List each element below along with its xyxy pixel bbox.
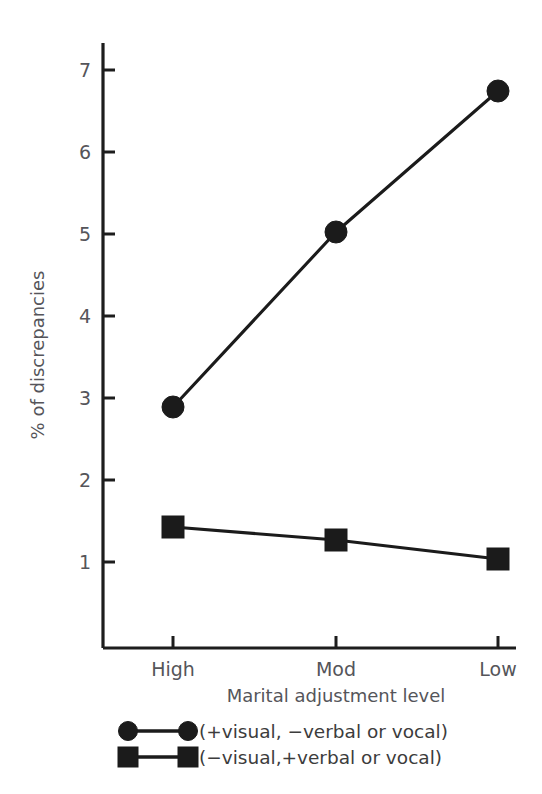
y-tick-label-4: 4 <box>79 305 91 327</box>
legend-label-1: (+visual, −verbal or vocal) <box>199 721 448 742</box>
y-tick-label-5: 5 <box>79 223 91 245</box>
x-tick-label-mod: Mod <box>316 658 356 680</box>
line-chart: 7 6 5 4 3 2 1 High Mod Low Marital adjus… <box>0 0 542 794</box>
data-point-marker <box>325 221 347 243</box>
y-tick-label-6: 6 <box>79 141 91 163</box>
square-marker-icon <box>118 747 138 767</box>
x-tick-label-low: Low <box>479 658 516 680</box>
y-tick-label-7: 7 <box>79 59 91 81</box>
y-tick-label-2: 2 <box>79 469 91 491</box>
data-point-marker <box>162 516 184 538</box>
chart-axes <box>103 43 516 648</box>
chart-legend: (+visual, −verbal or vocal) (−visual,+ve… <box>118 721 448 768</box>
square-marker-icon <box>178 747 198 767</box>
x-axis-title: Marital adjustment level <box>227 685 446 706</box>
data-point-marker <box>162 396 184 418</box>
y-axis-ticks: 7 6 5 4 3 2 1 <box>79 59 115 573</box>
series-1-line <box>173 91 498 407</box>
series-visual-minus <box>162 516 509 570</box>
circle-marker-icon <box>179 722 198 741</box>
y-tick-label-1: 1 <box>79 551 91 573</box>
x-tick-label-high: High <box>151 658 195 680</box>
legend-label-2: (−visual,+verbal or vocal) <box>199 747 442 768</box>
x-axis-ticks: High Mod Low <box>151 636 517 680</box>
data-point-marker <box>487 548 509 570</box>
circle-marker-icon <box>119 722 138 741</box>
series-visual-plus <box>162 80 509 418</box>
data-point-marker <box>325 529 347 551</box>
y-tick-label-3: 3 <box>79 387 91 409</box>
legend-entry-circle: (+visual, −verbal or vocal) <box>119 721 448 742</box>
legend-entry-square: (−visual,+verbal or vocal) <box>118 747 442 768</box>
y-axis-title: % of discrepancies <box>27 271 48 440</box>
chart-figure: 7 6 5 4 3 2 1 High Mod Low Marital adjus… <box>0 0 542 794</box>
data-point-marker <box>487 80 509 102</box>
